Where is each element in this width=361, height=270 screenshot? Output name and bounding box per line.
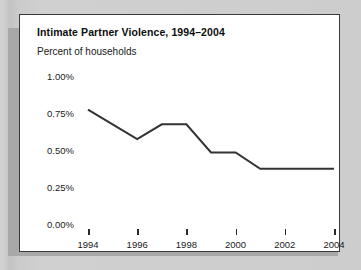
plot-area: 1.00%0.75%0.50%0.25%0.00% 19941996199820… <box>20 15 341 253</box>
chart-panel: Intimate Partner Violence, 1994–2004 Per… <box>19 14 340 252</box>
data-series-line <box>20 15 341 253</box>
